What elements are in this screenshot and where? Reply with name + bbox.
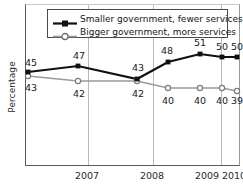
open-circle-marker-icon <box>52 27 78 38</box>
legend-label-smaller-government: Smaller government, fewer services <box>80 14 243 24</box>
y-axis-title: Percentage <box>7 47 17 127</box>
data-label-bigger-3: 40 <box>162 95 174 106</box>
data-label-bigger-0: 43 <box>25 82 37 93</box>
x-tick-2009: 2009 <box>195 170 219 181</box>
data-label-smaller-2: 43 <box>132 62 144 73</box>
data-label-bigger-5: 40 <box>216 95 228 106</box>
legend-item-smaller-government: Smaller government, fewer services <box>52 13 223 25</box>
data-label-bigger-6: 39 <box>231 95 243 106</box>
data-label-smaller-0: 45 <box>25 57 37 68</box>
x-tick-2010: 2010 <box>222 170 243 181</box>
data-label-smaller-3: 48 <box>161 45 173 56</box>
data-label-smaller-4: 51 <box>194 37 206 48</box>
legend-item-bigger-government: Bigger government, more services <box>52 26 223 38</box>
chart-legend: Smaller government, fewer services Bigge… <box>47 9 228 38</box>
chart-container: Percentage 45 47 43 48 51 50 50 43 42 42 <box>0 0 243 192</box>
x-tick-2007: 2007 <box>75 170 99 181</box>
data-label-bigger-4: 40 <box>194 95 206 106</box>
filled-square-marker-icon <box>52 14 78 25</box>
legend-label-bigger-government: Bigger government, more services <box>80 27 236 37</box>
x-tick-2008: 2008 <box>140 170 164 181</box>
data-label-smaller-6: 50 <box>231 41 243 52</box>
data-label-smaller-1: 47 <box>73 50 85 61</box>
data-label-bigger-2: 42 <box>132 88 144 99</box>
data-label-smaller-5: 50 <box>216 41 228 52</box>
data-label-bigger-1: 42 <box>73 88 85 99</box>
